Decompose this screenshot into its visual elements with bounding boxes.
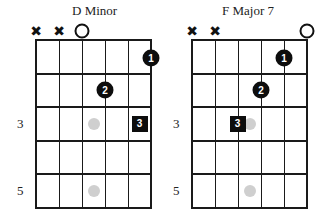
fret-marker-dot [88, 185, 100, 197]
chord-title: D Minor [72, 3, 117, 19]
fret-line [193, 140, 306, 142]
fret-number-label: 3 [17, 116, 24, 132]
finger-circle-marker: 1 [143, 49, 160, 66]
string-line [261, 41, 263, 207]
open-string-icon [300, 24, 315, 39]
string-line [215, 41, 217, 207]
fret-line [193, 173, 306, 175]
fret-line [37, 140, 150, 142]
muted-string-icon: ✖ [209, 24, 221, 38]
fret-line [37, 106, 150, 108]
finger-circle-marker: 2 [253, 82, 270, 99]
fret-number-label: 3 [173, 116, 180, 132]
fret-number-label: 5 [17, 183, 24, 199]
string-line [59, 41, 61, 207]
chord-title: F Major 7 [222, 3, 274, 19]
string-line [128, 41, 130, 207]
fret-marker-dot [88, 118, 100, 130]
finger-square-marker: 3 [132, 116, 148, 132]
open-string-icon [75, 24, 90, 39]
fret-line [37, 73, 150, 75]
fret-line [37, 173, 150, 175]
finger-circle-marker: 2 [97, 82, 114, 99]
fret-line [193, 73, 306, 75]
finger-square-marker: 3 [230, 116, 246, 132]
fret-number-label: 5 [173, 183, 180, 199]
string-line [82, 41, 84, 207]
finger-circle-marker: 1 [276, 49, 293, 66]
muted-string-icon: ✖ [30, 24, 42, 38]
string-line [105, 41, 107, 207]
fret-line [193, 106, 306, 108]
fret-marker-dot [244, 185, 256, 197]
muted-string-icon: ✖ [186, 24, 198, 38]
muted-string-icon: ✖ [53, 24, 65, 38]
